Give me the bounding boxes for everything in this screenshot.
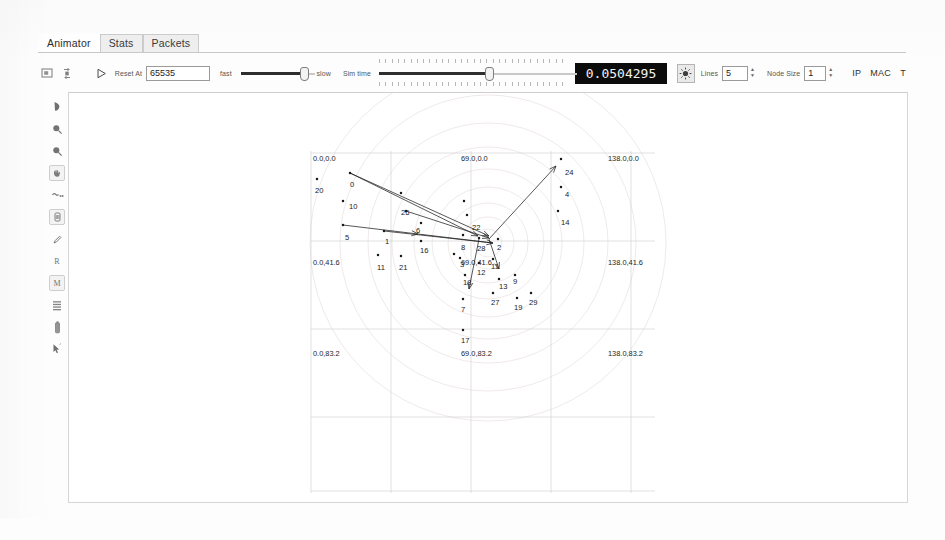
node-label: 13 bbox=[499, 282, 507, 291]
lines-input[interactable] bbox=[722, 66, 748, 81]
node-trajectory-tool-icon[interactable] bbox=[49, 209, 65, 225]
play-button[interactable] bbox=[94, 66, 109, 80]
screenshot-icon[interactable] bbox=[40, 66, 54, 81]
node-label: 8 bbox=[461, 243, 465, 252]
node-dot[interactable] bbox=[420, 222, 423, 225]
node-label: 0 bbox=[350, 180, 354, 189]
node-label: 9 bbox=[513, 277, 517, 286]
node-dot[interactable] bbox=[498, 278, 501, 281]
node-dot[interactable] bbox=[492, 292, 495, 295]
node-label: 16 bbox=[420, 246, 428, 255]
animation-stage: 0201052661112116228282312111813927192971… bbox=[69, 93, 907, 502]
sim-time-track-rest bbox=[488, 73, 577, 75]
zoom-in-tool-icon[interactable] bbox=[48, 118, 66, 140]
sun-icon[interactable] bbox=[677, 64, 695, 83]
node-label: 2 bbox=[497, 243, 501, 252]
node-dot[interactable] bbox=[497, 238, 500, 241]
node-dot[interactable] bbox=[420, 240, 423, 243]
tab-packets[interactable]: Packets bbox=[143, 34, 200, 52]
pan-hand-tool-icon[interactable] bbox=[49, 165, 65, 181]
node-dot[interactable] bbox=[453, 253, 456, 256]
show-routing-tool-icon[interactable]: R bbox=[48, 250, 66, 272]
battery-tool-icon[interactable] bbox=[48, 316, 66, 338]
node-dot[interactable] bbox=[560, 186, 563, 189]
node-label: 11 bbox=[491, 262, 499, 271]
coordinate-label: 0.0,41.6 bbox=[313, 258, 340, 267]
node-label: 17 bbox=[461, 336, 469, 345]
node-dot[interactable] bbox=[316, 178, 319, 181]
node-label: 24 bbox=[565, 168, 573, 177]
left-tool-palette: R M bbox=[46, 96, 68, 396]
node-size-stepper[interactable]: ▲▼ bbox=[828, 66, 833, 81]
range-rings bbox=[310, 93, 666, 421]
node-label: 19 bbox=[514, 303, 522, 312]
t-toggle[interactable]: T bbox=[900, 68, 906, 78]
zoom-out-tool-icon[interactable] bbox=[48, 140, 66, 162]
node-dot[interactable] bbox=[349, 172, 352, 175]
coordinate-label: 69.0,41.6 bbox=[461, 258, 492, 267]
node-size-label: Node Size bbox=[767, 70, 800, 77]
node-dot[interactable] bbox=[516, 297, 519, 300]
node-dot[interactable] bbox=[400, 255, 403, 258]
tab-stats[interactable]: Stats bbox=[100, 34, 143, 52]
node-label: 7 bbox=[461, 305, 465, 314]
sim-time-display: 0.0504295 bbox=[575, 63, 667, 84]
route-path-tool-icon[interactable] bbox=[48, 184, 66, 206]
coordinate-label: 138.0,41.6 bbox=[608, 258, 643, 267]
sim-time-ticks-bottom bbox=[379, 82, 563, 87]
node-label: 27 bbox=[491, 298, 499, 307]
node-size-input[interactable] bbox=[804, 66, 826, 81]
pencil-tool-icon[interactable] bbox=[48, 228, 66, 250]
node-label: 10 bbox=[349, 202, 357, 211]
coordinate-label: 0.0,83.2 bbox=[313, 349, 340, 358]
node-dot[interactable] bbox=[530, 292, 533, 295]
node-dot[interactable] bbox=[557, 210, 560, 213]
animation-canvas[interactable]: 0201052661112116228282312111813927192971… bbox=[68, 92, 908, 503]
node-label: 20 bbox=[315, 186, 323, 195]
node-label: 29 bbox=[529, 298, 537, 307]
node-dot[interactable] bbox=[462, 234, 465, 237]
node-dot[interactable] bbox=[560, 158, 563, 161]
node-label: 26 bbox=[401, 208, 409, 217]
node-dot[interactable] bbox=[400, 192, 403, 195]
lines-stepper[interactable]: ▲▼ bbox=[750, 66, 755, 81]
node-label: 12 bbox=[477, 268, 485, 277]
show-mac-tool-icon[interactable]: M bbox=[49, 275, 65, 291]
node-dot[interactable] bbox=[462, 298, 465, 301]
network-scene: 0201052661112116228282312111813927192971… bbox=[69, 93, 907, 502]
pointer-tool-icon[interactable] bbox=[48, 96, 66, 118]
mac-letter: M bbox=[53, 279, 60, 288]
node-dot[interactable] bbox=[492, 258, 495, 261]
node-label: 1 bbox=[385, 237, 389, 246]
node-dot[interactable] bbox=[383, 230, 386, 233]
coordinate-label: 138.0,83.2 bbox=[608, 349, 643, 358]
node-label: 11 bbox=[377, 263, 385, 272]
tab-animator[interactable]: Animator bbox=[38, 34, 100, 52]
node-label: 22 bbox=[472, 223, 480, 232]
coordinate-label: 0.0,0.0 bbox=[313, 154, 336, 163]
node-dot[interactable] bbox=[466, 214, 469, 217]
node-label: 21 bbox=[399, 263, 407, 272]
node-dot[interactable] bbox=[478, 237, 481, 240]
node-dot[interactable] bbox=[464, 274, 467, 277]
node-dot[interactable] bbox=[514, 274, 517, 277]
select-tool-icon[interactable] bbox=[48, 338, 66, 360]
sim-time-slider[interactable] bbox=[379, 65, 563, 81]
ip-toggle[interactable]: IP bbox=[852, 68, 861, 78]
node-dot[interactable] bbox=[342, 200, 345, 203]
speed-fast-label: fast bbox=[220, 70, 232, 77]
node-dot[interactable] bbox=[377, 254, 380, 257]
grid-tool-icon[interactable] bbox=[48, 294, 66, 316]
tab-bar: Animator Stats Packets bbox=[38, 33, 906, 53]
node-dot[interactable] bbox=[342, 224, 345, 227]
reload-icon[interactable] bbox=[60, 66, 74, 81]
speed-slider[interactable] bbox=[241, 65, 310, 81]
speed-slider-handle[interactable] bbox=[300, 67, 309, 81]
sim-time-slider-handle[interactable] bbox=[485, 67, 494, 81]
node-label: 18 bbox=[463, 278, 471, 287]
node-dot[interactable] bbox=[462, 329, 465, 332]
coordinate-labels: 0.0,0.069.0,0.0138.0,0.00.0,41.669.0,41.… bbox=[313, 154, 643, 358]
reset-at-input[interactable] bbox=[146, 66, 210, 81]
mac-toggle[interactable]: MAC bbox=[870, 68, 891, 78]
node-dot[interactable] bbox=[463, 200, 466, 203]
